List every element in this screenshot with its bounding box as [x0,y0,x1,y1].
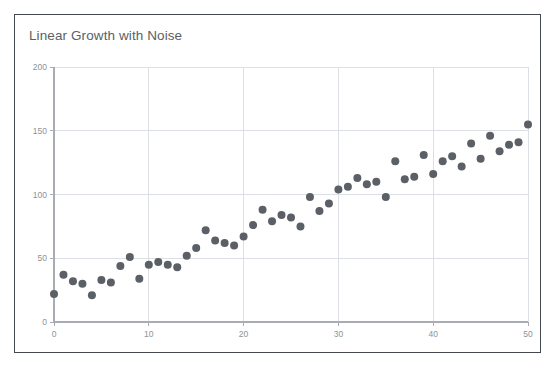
y-tick-label: 0 [42,317,47,327]
data-point [382,193,390,201]
data-point [268,217,276,225]
x-tick-label: 30 [334,329,344,339]
data-point [202,226,210,234]
chart-card: Linear Growth with Noise 050100150200010… [14,14,541,353]
data-point [59,271,67,279]
data-point [88,291,96,299]
data-point-group [50,120,532,299]
data-point [221,239,229,247]
data-point [420,151,428,159]
data-point [69,277,77,285]
data-point [296,222,304,230]
data-point [230,242,238,250]
data-point [211,236,219,244]
data-point [477,155,485,163]
data-point [173,263,181,271]
data-point [496,147,504,155]
data-point [249,221,257,229]
y-tick-label: 50 [38,253,48,263]
data-point [192,244,200,252]
data-point [429,170,437,178]
data-point [363,180,371,188]
data-point [391,157,399,165]
plot-area: 05010015020001020304050 [15,15,542,354]
data-point [448,152,456,160]
data-point [278,211,286,219]
data-point [135,275,143,283]
data-point [325,199,333,207]
data-point [401,175,409,183]
data-point [306,193,314,201]
data-point [154,258,162,266]
data-point [315,207,323,215]
data-point [334,185,342,193]
data-point [515,138,523,146]
x-tick-label: 50 [523,329,533,339]
data-point [439,157,447,165]
x-tick-label: 40 [428,329,438,339]
data-point [116,262,124,270]
data-point [183,252,191,260]
data-point [97,276,105,284]
data-point [486,132,494,140]
y-tick-label: 100 [33,190,47,200]
data-point [240,233,248,241]
data-point [467,140,475,148]
x-tick-label: 10 [144,329,154,339]
data-point [458,162,466,170]
data-point [524,120,532,128]
y-tick-label: 150 [33,126,47,136]
data-point [126,253,134,261]
x-tick-label: 0 [52,329,57,339]
data-point [145,261,153,269]
data-point [344,183,352,191]
data-point [164,261,172,269]
data-point [410,173,418,181]
data-point [78,280,86,288]
data-point [259,206,267,214]
data-point [505,141,513,149]
data-point [50,290,58,298]
y-tick-label: 200 [33,62,47,72]
data-point [107,278,115,286]
data-point [372,178,380,186]
data-point [353,174,361,182]
data-point [287,213,295,221]
scatter-plot-svg: 05010015020001020304050 [15,15,542,354]
x-tick-label: 20 [239,329,249,339]
